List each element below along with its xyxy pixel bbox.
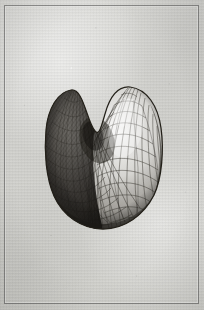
illustration-figure <box>0 0 204 310</box>
plate-canvas <box>0 0 204 310</box>
figure-body <box>40 80 170 236</box>
rim-shadow <box>40 80 170 236</box>
